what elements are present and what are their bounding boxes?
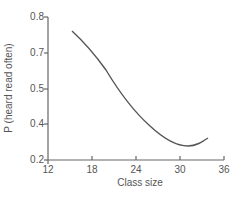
x-tick-label: 36 <box>212 164 236 175</box>
x-tick-label: 30 <box>168 164 192 175</box>
y-tick-label: 0.4 <box>30 119 44 129</box>
x-tick-label: 24 <box>124 164 148 175</box>
x-tick-label: 12 <box>36 164 60 175</box>
y-tick-label: 0.7 <box>30 48 44 58</box>
y-tick-label: 0.5 <box>30 84 44 94</box>
y-tick-label: 0.8 <box>30 12 44 22</box>
y-axis-title: P (heard read often) <box>3 28 14 148</box>
line-chart: 0.8 0.7 0.5 0.4 0.2 12 18 24 30 36 P (he… <box>0 0 243 197</box>
data-line <box>72 31 208 146</box>
x-tick-label: 18 <box>80 164 104 175</box>
x-axis-title: Class size <box>100 177 180 188</box>
